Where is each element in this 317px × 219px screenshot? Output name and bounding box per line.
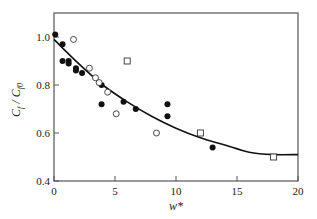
y-tick-label: 0.4 — [36, 175, 50, 187]
filled-circle-marker — [66, 60, 72, 66]
open-square-marker — [271, 154, 277, 160]
x-axis-ticks: 05101520 — [51, 176, 304, 197]
x-tick-label: 15 — [232, 185, 244, 197]
open-circle-marker — [86, 65, 92, 71]
x-tick-label: 5 — [112, 185, 118, 197]
filled-circle-marker — [73, 68, 79, 74]
open-circle-marker — [105, 89, 111, 95]
filled-circle-marker — [121, 99, 127, 105]
open-circle-marker — [96, 80, 102, 86]
filled-circle-marker — [60, 41, 66, 47]
x-axis-label: w* — [169, 199, 183, 213]
open-square-marker — [197, 130, 203, 136]
data-markers — [52, 32, 276, 160]
filled-circle-marker — [164, 101, 170, 107]
x-tick-label: 20 — [293, 185, 305, 197]
fit-curve — [54, 39, 298, 154]
y-axis-ticks: 0.40.60.81.0 — [36, 31, 59, 187]
filled-circle-marker — [60, 58, 66, 64]
filled-circle-marker — [133, 106, 139, 112]
open-circle-marker — [113, 111, 119, 117]
y-tick-label: 0.8 — [36, 79, 50, 91]
filled-circle-marker — [210, 144, 216, 150]
open-square-marker — [124, 58, 130, 64]
y-tick-label: 1.0 — [36, 31, 50, 43]
x-tick-label: 0 — [51, 185, 57, 197]
filled-circle-marker — [164, 113, 170, 119]
filled-circle-marker — [52, 32, 58, 38]
x-tick-label: 10 — [171, 185, 183, 197]
y-axis-label: Cf / Cf0 — [9, 83, 25, 117]
plot-frame — [54, 13, 298, 181]
open-circle-marker — [71, 36, 77, 42]
filled-circle-marker — [99, 101, 105, 107]
filled-circle-marker — [79, 70, 85, 76]
chart: 0.40.60.81.0 05101520 w* Cf / Cf0 — [0, 0, 317, 219]
open-circle-marker — [153, 130, 159, 136]
y-tick-label: 0.6 — [36, 127, 50, 139]
